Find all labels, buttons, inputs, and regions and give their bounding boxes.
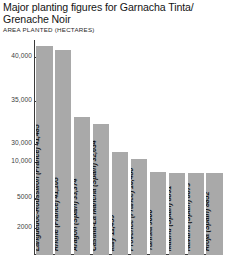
bar-label: Navarra (Spain) 8873 bbox=[188, 183, 192, 251]
bar[interactable]: Madrid (Spain) 8891 bbox=[169, 173, 185, 255]
chart-header: Major planting figures for Garnacha Tint… bbox=[3, 1, 223, 34]
bar-label: Rhône (France) 41,105 bbox=[55, 177, 59, 251]
bar-label: Rioja (Spain) 8852 bbox=[206, 192, 210, 251]
plot-area: 40,00035,00030,00010,00050002000 Langued… bbox=[0, 40, 227, 262]
bar[interactable]: Rhône (France) 41,105 bbox=[55, 50, 71, 255]
y-axis-tick-label: 5000 bbox=[17, 193, 32, 200]
bar[interactable]: Italy 11,459 bbox=[112, 152, 128, 255]
chart-subtitle: AREA PLANTED (HECTARES) bbox=[3, 26, 223, 34]
bar-label: Aragón (Spain) 33,374 bbox=[74, 179, 78, 251]
bar[interactable]: Navarra (Spain) 8873 bbox=[188, 173, 204, 255]
bar-label: Tunisia 9000 bbox=[150, 210, 154, 251]
bar[interactable]: Aragón (Spain) 33,374 bbox=[74, 117, 90, 255]
bar-label: Languedoc-Roussillon (France) 41,485 bbox=[36, 125, 40, 251]
bar-label: Madrid (Spain) 8891 bbox=[169, 186, 173, 251]
y-axis-tick-label: 30,000 bbox=[11, 139, 32, 146]
bar[interactable]: Rioja (Spain) 8852 bbox=[206, 173, 222, 255]
bar[interactable]: Provence (France) 10,486 bbox=[131, 159, 147, 255]
bar-label: Provence (France) 10,486 bbox=[131, 168, 135, 251]
y-axis-tick-label: 10,000 bbox=[11, 157, 32, 164]
bar[interactable]: Castilla-La Mancha (Spain) 32,634 bbox=[93, 124, 109, 255]
bar-label: Castilla-La Mancha (Spain) 32,634 bbox=[93, 140, 97, 251]
bar-label: Italy 11,459 bbox=[112, 215, 116, 251]
y-axis-tick-label: 2000 bbox=[17, 223, 32, 230]
bar-group: Languedoc-Roussillon (France) 41,485Rhôn… bbox=[35, 40, 224, 255]
y-axis-tick-label: 40,000 bbox=[11, 52, 32, 59]
y-axis-tick-label: 35,000 bbox=[11, 96, 32, 103]
bar[interactable]: Languedoc-Roussillon (France) 41,485 bbox=[36, 46, 52, 255]
bar[interactable]: Tunisia 9000 bbox=[150, 172, 166, 255]
chart-page: Major planting figures for Garnacha Tint… bbox=[0, 0, 227, 262]
page-title: Major planting figures for Garnacha Tint… bbox=[3, 1, 223, 25]
